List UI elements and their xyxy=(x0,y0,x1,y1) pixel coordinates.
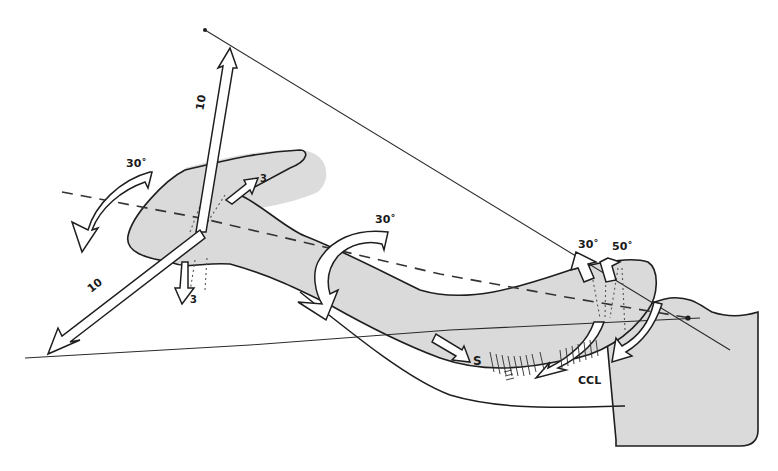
subclavius-muscle-marks xyxy=(504,370,514,380)
label-rotation-lateral: 30˚ xyxy=(126,157,147,170)
label-ccl: CCL xyxy=(578,374,601,387)
label-translation-vertical: 10 xyxy=(193,93,209,111)
clavicle-motion-diagram: 10 10 3 3 30˚ 30˚ 30˚ 50˚ S xyxy=(0,0,778,471)
label-subclavius: S xyxy=(473,354,482,368)
label-rotation-medial-b: 50˚ xyxy=(612,240,633,253)
reference-point-top xyxy=(203,28,207,32)
label-translation-small-down: 3 xyxy=(190,294,197,305)
label-translation-small-up: 3 xyxy=(260,173,267,184)
label-rotation-shaft: 30˚ xyxy=(375,213,396,226)
sc-joint-pivot xyxy=(685,315,690,320)
label-translation-ap: 10 xyxy=(85,276,105,296)
label-rotation-medial-a: 30˚ xyxy=(578,238,599,251)
